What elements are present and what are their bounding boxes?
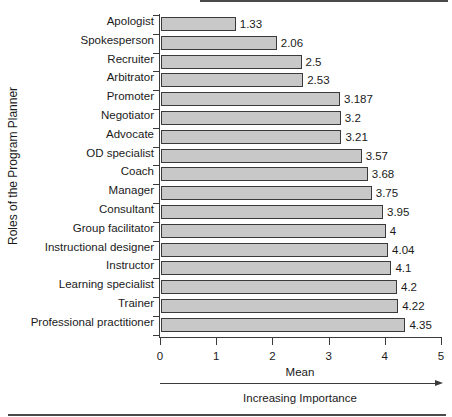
y-tick: [153, 15, 160, 16]
y-tick: [153, 203, 160, 204]
category-label: Recruiter: [107, 53, 154, 65]
x-tick-label: 4: [382, 350, 388, 362]
y-tick: [153, 184, 160, 185]
y-tick: [153, 71, 160, 72]
y-tick: [153, 147, 160, 148]
y-tick: [153, 259, 160, 260]
bar: [161, 224, 386, 238]
category-label: Learning specialist: [59, 278, 154, 290]
category-label: Group facilitator: [73, 222, 154, 234]
bar: [161, 92, 340, 106]
value-label: 2.53: [307, 74, 329, 86]
x-tick-label: 2: [269, 350, 275, 362]
y-tick: [153, 128, 160, 129]
value-label: 4.22: [402, 300, 424, 312]
category-label: Coach: [121, 165, 154, 177]
bottom-rule: [8, 414, 446, 416]
value-label: 4: [390, 225, 396, 237]
category-label: Professional practitioner: [31, 316, 154, 328]
x-tick-label: 0: [157, 350, 163, 362]
bar: [161, 299, 398, 313]
importance-arrow: [160, 383, 436, 384]
y-tick: [153, 297, 160, 298]
category-label: Spokesperson: [80, 34, 154, 46]
x-tick: [329, 337, 330, 345]
bar: [161, 36, 277, 50]
value-label: 1.33: [240, 18, 262, 30]
x-axis: [159, 337, 442, 338]
category-label: Advocate: [106, 128, 154, 140]
bar: [161, 130, 341, 144]
y-tick: [153, 316, 160, 317]
category-label: Trainer: [118, 297, 154, 309]
y-tick: [153, 34, 160, 35]
y-tick: [153, 335, 160, 336]
x-tick: [160, 337, 161, 345]
arrow-head-icon: [435, 380, 443, 386]
x-tick-label: 1: [213, 350, 219, 362]
x-tick: [441, 337, 442, 345]
category-label: Consultant: [99, 203, 154, 215]
y-tick: [153, 278, 160, 279]
x-tick: [385, 337, 386, 345]
bar: [161, 318, 405, 332]
value-label: 3.57: [366, 150, 388, 162]
bar: [161, 243, 388, 257]
bar: [161, 186, 372, 200]
bar: [161, 73, 303, 87]
x-tick-label: 3: [325, 350, 331, 362]
bar: [161, 261, 391, 275]
value-label: 4.1: [395, 262, 411, 274]
category-label: Instructor: [106, 259, 154, 271]
y-tick: [153, 241, 160, 242]
y-tick: [153, 165, 160, 166]
category-label: Manager: [109, 184, 154, 196]
value-label: 3.2: [345, 112, 361, 124]
category-label: Arbitrator: [107, 71, 154, 83]
x-tick: [272, 337, 273, 345]
value-label: 4.35: [409, 319, 431, 331]
value-label: 3.75: [376, 187, 398, 199]
bar-chart: Apologist1.33Spokesperson2.06Recruiter2.…: [0, 0, 452, 417]
importance-annotation: Increasing Importance: [243, 392, 357, 404]
category-label: Promoter: [107, 90, 154, 102]
category-label: Apologist: [107, 15, 154, 27]
category-label: Negotiator: [101, 109, 154, 121]
value-label: 4.2: [401, 281, 417, 293]
y-tick: [153, 53, 160, 54]
bar: [161, 149, 362, 163]
value-label: 4.04: [392, 244, 414, 256]
bar: [161, 111, 341, 125]
y-axis: [159, 14, 160, 338]
category-label: OD specialist: [86, 147, 154, 159]
x-tick: [216, 337, 217, 345]
value-label: 3.21: [345, 131, 367, 143]
value-label: 2.06: [281, 37, 303, 49]
y-tick: [153, 222, 160, 223]
x-tick-label: 5: [438, 350, 444, 362]
bar: [161, 167, 368, 181]
bar: [161, 205, 383, 219]
bar: [161, 55, 302, 69]
value-label: 2.5: [306, 56, 322, 68]
y-tick: [153, 90, 160, 91]
value-label: 3.68: [372, 168, 394, 180]
bar: [161, 280, 397, 294]
x-axis-label: Mean: [286, 366, 315, 378]
value-label: 3.187: [344, 93, 373, 105]
bar: [161, 17, 236, 31]
category-label: Instructional designer: [45, 241, 154, 253]
y-tick: [153, 109, 160, 110]
value-label: 3.95: [387, 206, 409, 218]
